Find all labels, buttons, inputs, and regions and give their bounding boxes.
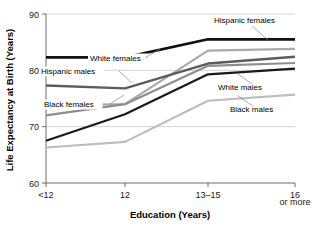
series-annotation-white-males: White males <box>218 83 262 92</box>
y-tick-labels: 60708090 <box>29 10 39 189</box>
series-annotation-black-females: Black females <box>44 100 94 109</box>
y-axis-title: Life Expectancy at Birth (Years) <box>4 29 15 172</box>
annotation-leader-line <box>252 26 268 40</box>
x-tick-labels: <121213–1516 <box>38 190 300 200</box>
y-tick-label: 80 <box>29 66 39 76</box>
data-series-group <box>46 39 295 147</box>
series-line-hispanic-females <box>46 39 295 57</box>
series-annotation-hispanic-females: Hispanic females <box>214 16 275 25</box>
x-tick-label: 12 <box>120 190 130 200</box>
x-tick-label: <12 <box>38 190 53 200</box>
x-tick-label: 13–15 <box>195 190 220 200</box>
y-tick-label: 60 <box>29 179 39 189</box>
series-annotation-white-females: White females <box>90 54 141 63</box>
chart-svg: Life Expectancy at Birth (Years) 6070809… <box>0 0 316 226</box>
y-tick-label: 90 <box>29 10 39 20</box>
x-tick-marks <box>46 183 295 187</box>
y-tick-label: 70 <box>29 122 39 132</box>
x-axis-title: Education (Years) <box>130 209 210 220</box>
annotation-leader-line <box>119 71 132 83</box>
x-tick-sublabel: or more <box>279 197 310 207</box>
annotation-leader-line <box>110 95 124 104</box>
life-expectancy-line-chart: Life Expectancy at Birth (Years) 6070809… <box>0 0 316 226</box>
series-annotation-hispanic-males: Hispanic males <box>41 67 95 76</box>
series-annotation-black-males: Black males <box>230 105 273 114</box>
